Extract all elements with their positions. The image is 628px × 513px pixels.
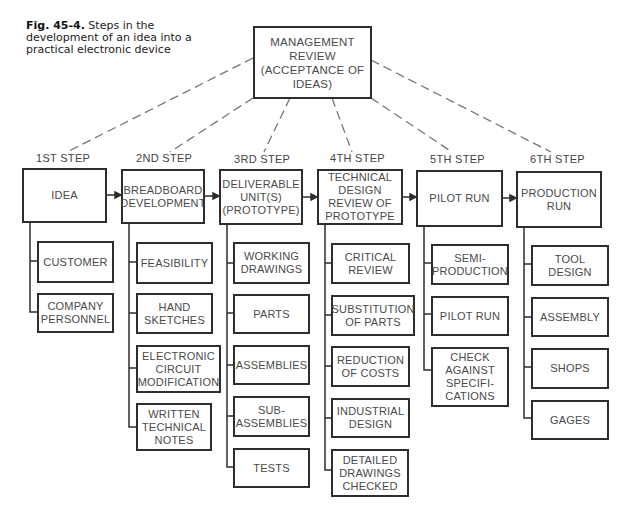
sub-box: TESTS [233, 448, 310, 488]
sub-box: PILOT RUN [431, 296, 509, 336]
sub-box: ASSEMBLIES [233, 345, 310, 385]
step-box-production-run: PRODUCTION RUN [516, 171, 602, 228]
management-review-box: MANAGEMENT REVIEW (ACCEPTANCE OF IDEAS) [253, 26, 372, 99]
step-box-idea: IDEA [22, 168, 107, 223]
sub-box: REDUCTION OF COSTS [331, 346, 410, 387]
sub-box: FEASIBILITY [136, 242, 213, 284]
sub-box: SUBSTITUTION OF PARTS [331, 295, 415, 336]
step-label-4: 4TH STEP [330, 152, 385, 164]
sub-box: TOOL DESIGN [531, 245, 609, 286]
step-label-3: 3RD STEP [234, 153, 290, 165]
sub-box: SHOPS [531, 348, 609, 389]
step-box-deliverable: DELIVERABLE UNIT(S) (PROTOTYPE) [219, 169, 303, 225]
sub-box: SUB- ASSEMBLIES [233, 396, 310, 437]
sub-box: PARTS [233, 294, 310, 334]
step-label-6: 6TH STEP [530, 153, 585, 165]
step-label-2: 2ND STEP [136, 152, 192, 164]
step-box-pilot-run: PILOT RUN [416, 170, 503, 227]
sub-box: CRITICAL REVIEW [331, 243, 410, 284]
sub-box: INDUSTRIAL DESIGN [331, 398, 410, 438]
sub-box: CUSTOMER [37, 241, 114, 283]
sub-box: ELECTRONIC CIRCUIT MODIFICATION [136, 345, 221, 393]
sub-box: WORKING DRAWINGS [233, 242, 310, 284]
sub-box: GAGES [531, 400, 609, 440]
sub-box: CHECK AGAINST SPECIFI- CATIONS [431, 347, 509, 407]
step-label-1: 1ST STEP [36, 152, 90, 164]
sub-box: HAND SKETCHES [136, 293, 213, 334]
sub-box: SEMI- PRODUCTION [431, 244, 509, 285]
step-box-breadboard: BREADBOARD DEVELOPMENT [121, 169, 205, 224]
sub-box: ASSEMBLY [531, 297, 609, 337]
sub-box: COMPANY PERSONNEL [37, 293, 114, 333]
sub-box: WRITTEN TECHNICAL NOTES [136, 403, 212, 451]
step-label-5: 5TH STEP [430, 153, 485, 165]
sub-box: DETAILED DRAWINGS CHECKED [331, 449, 409, 497]
step-box-technical-review: TECHNICAL DESIGN REVIEW OF PROTOTYPE [317, 169, 403, 225]
